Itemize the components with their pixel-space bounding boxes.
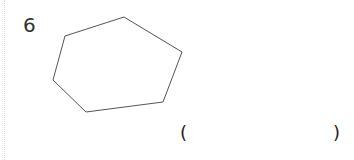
answer-paren-close: ) (333, 121, 340, 145)
answer-paren-open: ( (180, 121, 187, 145)
worksheet-question: 6 ( ) (0, 0, 354, 160)
answer-blank[interactable] (192, 121, 332, 145)
